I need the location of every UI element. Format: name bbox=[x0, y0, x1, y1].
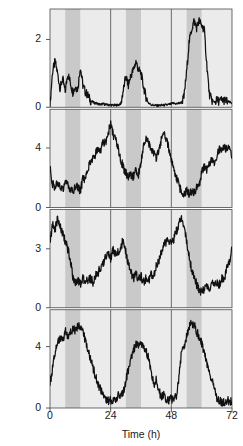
x-axis-label: Time (h) bbox=[50, 428, 232, 440]
multi-panel-plot bbox=[0, 0, 243, 446]
panel-4 bbox=[46, 310, 232, 408]
light-phase-band bbox=[50, 9, 65, 107]
y-tick-label: 3 bbox=[25, 242, 41, 254]
y-tick-label: 0 bbox=[25, 201, 41, 213]
x-tick-label: 48 bbox=[161, 409, 181, 421]
light-phase-band bbox=[50, 310, 65, 408]
y-tick-label: 2 bbox=[25, 32, 41, 44]
dark-phase-band bbox=[126, 9, 141, 107]
y-tick-label: 0 bbox=[25, 401, 41, 413]
light-phase-band bbox=[50, 109, 65, 207]
light-phase-band bbox=[111, 9, 126, 107]
y-tick-label: 4 bbox=[25, 141, 41, 153]
light-phase-band bbox=[202, 210, 232, 308]
dark-phase-band bbox=[126, 310, 141, 408]
y-tick-label: 0 bbox=[25, 100, 41, 112]
dark-phase-band bbox=[126, 210, 141, 308]
x-tick-label: 24 bbox=[101, 409, 121, 421]
x-tick-label: 72 bbox=[222, 409, 242, 421]
light-phase-band bbox=[80, 310, 110, 408]
panel-1 bbox=[46, 9, 232, 107]
light-phase-band bbox=[141, 210, 171, 308]
firing-rate-figure: Firing rate (action potentials/sec) Time… bbox=[0, 0, 243, 446]
light-phase-band bbox=[111, 109, 126, 207]
panel-3 bbox=[46, 210, 232, 308]
panel-2 bbox=[46, 109, 232, 207]
dark-phase-band bbox=[126, 109, 141, 207]
y-tick-label: 0 bbox=[25, 301, 41, 313]
dark-phase-band bbox=[65, 210, 80, 308]
x-tick-label: 0 bbox=[40, 409, 60, 421]
light-phase-band bbox=[141, 310, 171, 408]
light-phase-band bbox=[111, 210, 126, 308]
light-phase-band bbox=[171, 310, 186, 408]
y-tick-label: 4 bbox=[25, 340, 41, 352]
